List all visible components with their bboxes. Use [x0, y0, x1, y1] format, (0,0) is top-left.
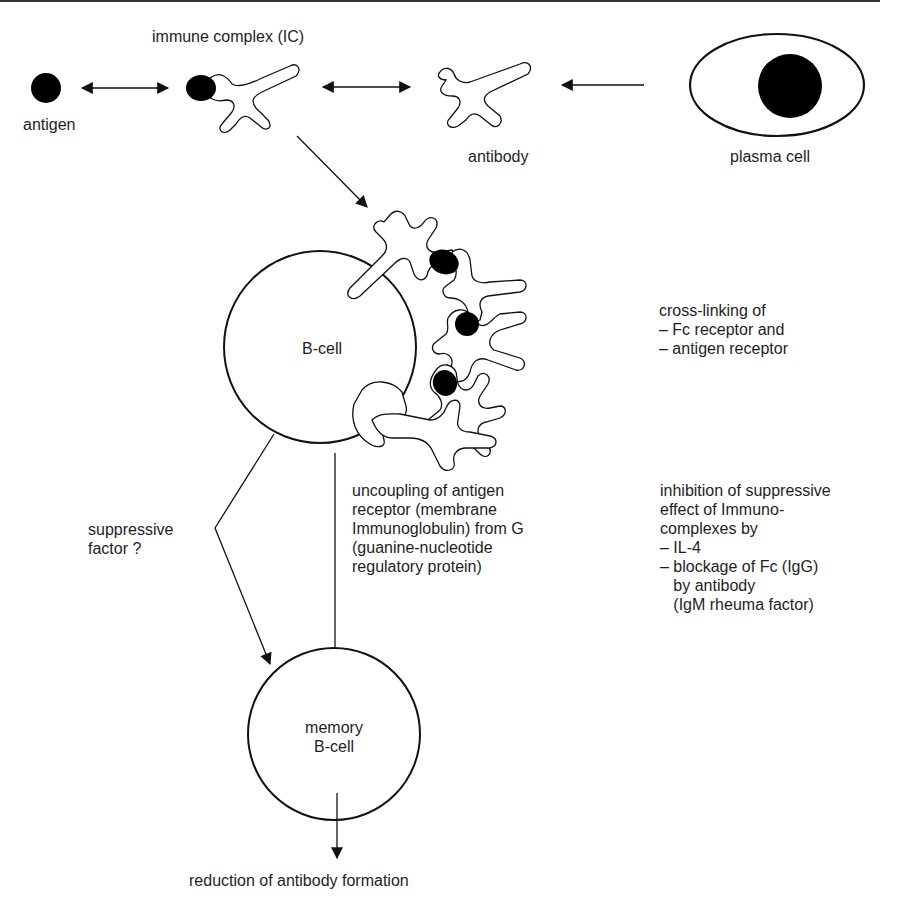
- uncoupling-line: (guanine-nucleotide: [352, 538, 524, 557]
- uncoupling-line: receptor (membrane: [352, 500, 524, 519]
- plasma-cell-node: [690, 34, 864, 136]
- inhibition-line: (IgM rheuma factor): [660, 595, 831, 614]
- immune-complex-label: immune complex (IC): [152, 27, 304, 46]
- b-cell-label: B-cell: [302, 339, 342, 358]
- cross-linking-line: – Fc receptor and: [659, 320, 788, 339]
- cross-linking-line: cross-linking of: [659, 301, 788, 320]
- memory-b-cell-label-line1: memory: [294, 718, 374, 737]
- diagram-canvas: [0, 0, 907, 915]
- suppressive-factor-line: factor ?: [88, 539, 173, 558]
- antigen-node: [31, 73, 61, 103]
- antigen-icon: [31, 73, 61, 103]
- inhibition-line: – IL-4: [660, 538, 831, 557]
- cross-linking-annotation: cross-linking of – Fc receptor and – ant…: [659, 301, 788, 358]
- memory-b-cell-label-line2: B-cell: [294, 737, 374, 756]
- antibody-icon: [438, 63, 530, 128]
- suppressive-factor-annotation: suppressive factor ?: [88, 520, 173, 558]
- outcome-label: reduction of antibody formation: [189, 871, 409, 890]
- inhibition-line: complexes by: [660, 519, 831, 538]
- arrow-bcell-memory-suppressive: [215, 434, 274, 664]
- memory-b-cell-label: memory B-cell: [294, 718, 374, 756]
- antigen-icon: [455, 312, 479, 336]
- suppressive-factor-line: suppressive: [88, 520, 173, 539]
- antibody-shape-icon: [208, 65, 299, 133]
- inhibition-line: – blockage of Fc (IgG): [660, 557, 831, 576]
- uncoupling-line: uncoupling of antigen: [352, 481, 524, 500]
- antigen-label: antigen: [23, 115, 76, 134]
- uncoupling-line: regulatory protein): [352, 557, 524, 576]
- immune-complex-node: [186, 65, 299, 133]
- inhibition-line: inhibition of suppressive: [660, 481, 831, 500]
- plasma-cell-nucleus-icon: [758, 54, 822, 118]
- inhibition-annotation: inhibition of suppressive effect of Immu…: [660, 481, 831, 614]
- antibody-label: antibody: [468, 147, 529, 166]
- antibody-node: [438, 63, 530, 128]
- inhibition-line: by antibody: [660, 576, 831, 595]
- uncoupling-annotation: uncoupling of antigen receptor (membrane…: [352, 481, 524, 576]
- bound-antigen-icon: [186, 75, 216, 101]
- cross-linking-line: – antigen receptor: [659, 339, 788, 358]
- uncoupling-line: Immunoglobulin) from G: [352, 519, 524, 538]
- plasma-cell-label: plasma cell: [730, 147, 810, 166]
- arrow-ic-bcell: [297, 136, 367, 207]
- inhibition-line: effect of Immuno-: [660, 500, 831, 519]
